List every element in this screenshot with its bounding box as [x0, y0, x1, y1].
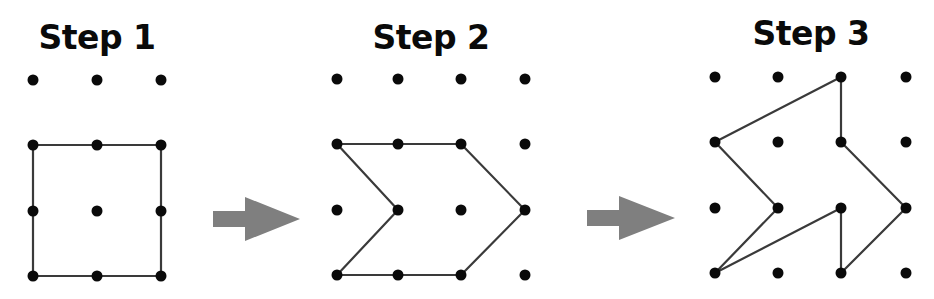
- grid-dot: [28, 206, 39, 217]
- grid-dot: [710, 203, 721, 214]
- step-2-grid: [332, 74, 531, 281]
- grid-dot: [901, 137, 912, 148]
- grid-dot: [520, 139, 531, 150]
- grid-dot: [520, 270, 531, 281]
- grid-dot: [773, 268, 784, 279]
- grid-dot: [393, 139, 404, 150]
- grid-dot: [28, 140, 39, 151]
- right-arrow-icon: [213, 197, 300, 241]
- grid-dot: [456, 270, 467, 281]
- grid-dot: [332, 139, 343, 150]
- grid-dot: [92, 206, 103, 217]
- grid-dot: [710, 72, 721, 83]
- grid-dot: [332, 205, 343, 216]
- grid-dot: [456, 74, 467, 85]
- grid-dot: [92, 75, 103, 86]
- grid-dot: [773, 203, 784, 214]
- grid-dot: [836, 72, 847, 83]
- grid-dot: [901, 268, 912, 279]
- shape-outline: [337, 144, 525, 275]
- grid-dot: [836, 137, 847, 148]
- grid-dot: [28, 75, 39, 86]
- grid-dot: [520, 74, 531, 85]
- step-1-grid: [28, 75, 167, 282]
- diagram-canvas: [0, 0, 934, 299]
- grid-dot: [836, 268, 847, 279]
- grid-dot: [901, 72, 912, 83]
- grid-dot: [901, 203, 912, 214]
- grid-dot: [332, 74, 343, 85]
- grid-dot: [156, 75, 167, 86]
- right-arrow-icon: [587, 196, 675, 240]
- grid-dot: [456, 139, 467, 150]
- grid-dot: [332, 270, 343, 281]
- grid-dot: [393, 270, 404, 281]
- grid-dot: [156, 206, 167, 217]
- grid-dot: [773, 72, 784, 83]
- grid-dot: [92, 271, 103, 282]
- grid-dot: [456, 205, 467, 216]
- grid-dot: [28, 271, 39, 282]
- step-3-grid: [710, 72, 912, 279]
- grid-dot: [92, 140, 103, 151]
- grid-dot: [836, 203, 847, 214]
- grid-dot: [156, 271, 167, 282]
- grid-dot: [710, 268, 721, 279]
- grid-dot: [393, 205, 404, 216]
- shape-outline: [715, 77, 906, 273]
- grid-dot: [156, 140, 167, 151]
- grid-dot: [520, 205, 531, 216]
- grid-dot: [393, 74, 404, 85]
- grid-dot: [710, 137, 721, 148]
- arrows-group: [213, 196, 675, 241]
- grid-dot: [773, 137, 784, 148]
